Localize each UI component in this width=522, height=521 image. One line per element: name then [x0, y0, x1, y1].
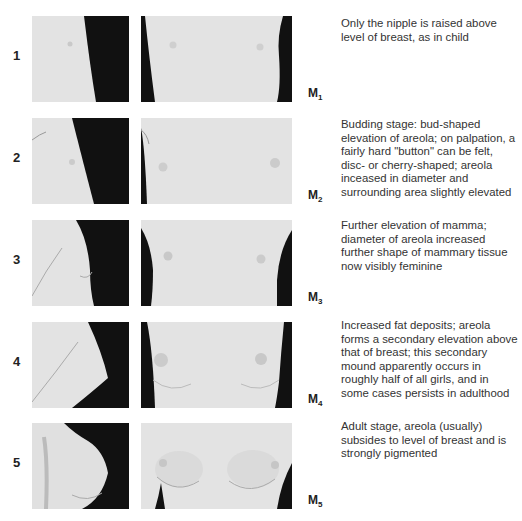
side-view-photo [32, 118, 129, 204]
side-view-photo [32, 322, 129, 408]
front-view-photo [141, 322, 292, 408]
stage-description: Only the nipple is raised above level of… [341, 17, 519, 44]
stage-description: Further elevation of mamma; diameter of … [341, 219, 519, 273]
stage-label: M2 [308, 188, 322, 204]
stage-label: M3 [308, 290, 322, 306]
stage-label: M4 [308, 392, 322, 408]
front-view-photo [141, 423, 292, 509]
stage-description: Adult stage, areola (usually) subsides t… [341, 420, 519, 461]
stage-description: Increased fat deposits; areola forms a s… [341, 319, 519, 401]
stage-number: 4 [13, 354, 20, 369]
side-view-photo [32, 16, 129, 102]
stage-number: 5 [13, 455, 20, 470]
front-view-photo [141, 220, 292, 306]
stage-number: 1 [13, 48, 20, 63]
stage-label: M1 [308, 86, 322, 102]
stage-number: 2 [13, 150, 20, 165]
front-view-photo [141, 118, 292, 204]
side-view-photo [32, 220, 129, 306]
stage-label: M5 [308, 493, 322, 509]
stage-number: 3 [13, 252, 20, 267]
front-view-photo [141, 16, 292, 102]
side-view-photo [32, 423, 129, 509]
stage-description: Budding stage: bud-shaped elevation of a… [341, 118, 519, 200]
